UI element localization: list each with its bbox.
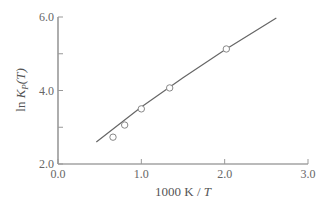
chart: 2.04.06.00.01.02.03.0 1000 K / T ln KP(T… [0,0,330,209]
y-tick-label: 6.0 [39,10,54,24]
axes [58,17,308,164]
y-tick-label: 4.0 [39,84,54,98]
data-point [110,134,116,140]
y-axis-title: ln KP(T) [13,68,30,111]
data-point [138,106,144,112]
x-tick-label: 0.0 [51,167,66,181]
data-point [223,46,229,52]
data-point [166,85,172,91]
x-tick-label: 3.0 [301,167,316,181]
x-axis-title: 1000 K / T [155,184,212,199]
data-point [121,122,127,128]
tick-labels: 2.04.06.00.01.02.03.0 [39,10,316,181]
x-tick-label: 1.0 [134,167,149,181]
x-tick-label: 2.0 [217,167,232,181]
data-points [110,46,230,141]
